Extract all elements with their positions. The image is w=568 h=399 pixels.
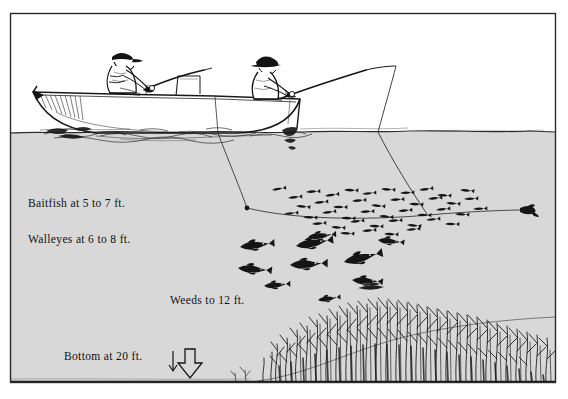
illustration-canvas: Baitfish at 5 to 7 ft. Walleyes at 6 to …: [0, 0, 568, 399]
label-weeds-depth: Weeds to 12 ft.: [170, 294, 245, 306]
water-area: [10, 132, 556, 383]
sky-area: [10, 13, 556, 132]
label-bottom-depth: Bottom at 20 ft.: [64, 350, 142, 362]
label-baitfish-depth: Baitfish at 5 to 7 ft.: [28, 197, 125, 209]
label-walleye-depth: Walleyes at 6 to 8 ft.: [28, 233, 131, 246]
